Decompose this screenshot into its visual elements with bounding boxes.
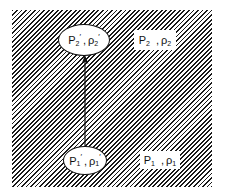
separator: , (156, 34, 159, 46)
pressure-symbol: P (69, 155, 76, 167)
pressure-subscript: 2 (146, 40, 150, 47)
pressure-subscript: 1 (151, 160, 155, 167)
pressure-prime: ′ (81, 152, 83, 161)
transition-arrow (0, 0, 226, 196)
pressure-symbol: P (68, 34, 75, 46)
separator: , (161, 154, 164, 166)
state-1-prime-node: P1′ , ρ1′ (63, 146, 107, 175)
state-1-label: P1 , ρ1 (140, 151, 180, 169)
separator: , (84, 155, 87, 167)
pressure-prime: ′ (80, 32, 82, 41)
state-2-prime-node: P2′ , ρ2′ (58, 24, 110, 56)
density-subscript: 1 (95, 160, 99, 167)
pressure-subscript: 2 (76, 40, 80, 47)
density-subscript: 2 (94, 40, 98, 47)
density-prime: ′ (99, 152, 101, 161)
density-prime: ′ (98, 32, 100, 41)
pressure-subscript: 1 (77, 160, 81, 167)
density-subscript: 1 (172, 160, 176, 167)
state-2-label: P2 , ρ2 (134, 30, 176, 50)
separator: , (83, 34, 86, 46)
density-subscript: 2 (167, 40, 171, 47)
pressure-symbol: P (144, 154, 151, 166)
pressure-symbol: P (139, 34, 146, 46)
